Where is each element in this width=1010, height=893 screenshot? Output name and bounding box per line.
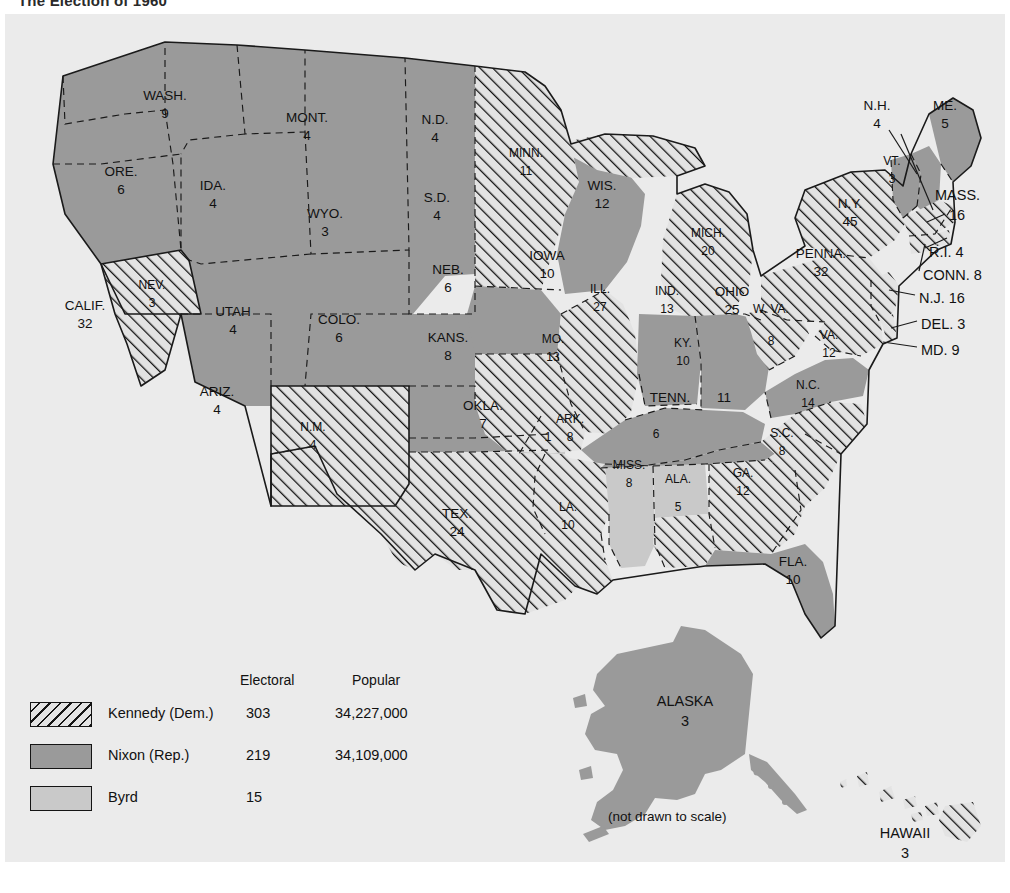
label-ida-votes: 4 xyxy=(209,196,217,211)
label-alaska-votes: 3 xyxy=(681,713,689,729)
label-nh: N.H. xyxy=(864,98,891,113)
label-ohio-votes: 25 xyxy=(724,302,739,317)
label-la: LA. xyxy=(559,500,577,514)
label-tenn-votes: 11 xyxy=(717,390,731,405)
label-wva-votes: 8 xyxy=(768,334,775,348)
label-sc-votes: 8 xyxy=(779,444,786,458)
label-me: ME. xyxy=(933,98,957,113)
legend-electoral-nixon: 219 xyxy=(246,747,270,763)
label-fla: FLA. xyxy=(779,554,808,569)
legend-swatch-nixon xyxy=(30,744,92,769)
label-wash-votes: 9 xyxy=(161,106,169,121)
legend-electoral-kennedy: 303 xyxy=(246,705,270,721)
label-tenn: TENN. xyxy=(650,390,691,405)
label-tex: TEX. xyxy=(442,506,472,521)
label-ind-votes: 13 xyxy=(660,302,674,316)
label-iowa-votes: 10 xyxy=(539,266,554,281)
label-wash: WASH. xyxy=(143,88,187,103)
label-ore: ORE. xyxy=(104,164,137,179)
label-utah-votes: 4 xyxy=(229,322,237,337)
label-penna: PENNA. xyxy=(796,246,846,261)
label-penna-votes: 32 xyxy=(813,264,828,279)
label-ore-votes: 6 xyxy=(117,182,125,197)
label-nev: NEV. xyxy=(139,278,166,292)
label-okla-byrd-votes: 1 xyxy=(545,430,552,444)
page-title: The Election of 1960 xyxy=(18,0,167,9)
label-okla: OKLA. xyxy=(463,398,503,413)
label-nm-votes: 4 xyxy=(310,438,317,452)
legend-row-nixon[interactable]: Nixon (Rep.) 219 34,109,000 xyxy=(22,740,452,782)
label-mass: MASS. xyxy=(935,187,980,203)
label-wis-votes: 12 xyxy=(594,196,609,211)
label-mo: MO. xyxy=(542,332,565,346)
label-ida: IDA. xyxy=(200,178,226,193)
legend-row-byrd[interactable]: Byrd 15 xyxy=(22,782,452,824)
legend-col-electoral: Electoral xyxy=(240,672,294,688)
label-la-votes: 10 xyxy=(561,518,575,532)
label-kans-votes: 8 xyxy=(444,348,452,363)
label-nc: N.C. xyxy=(796,378,820,392)
label-ind: IND. xyxy=(655,284,679,298)
alaska-isle-1 xyxy=(754,769,761,776)
label-okla-votes: 7 xyxy=(479,416,487,431)
label-nj: N.J. 16 xyxy=(919,290,965,306)
legend-swatch-kennedy xyxy=(30,702,92,727)
legend-row-kennedy[interactable]: Kennedy (Dem.) 303 34,227,000 xyxy=(22,698,452,740)
label-neb: NEB. xyxy=(432,262,464,277)
legend-electoral-byrd: 15 xyxy=(246,789,262,805)
label-miss-votes: 8 xyxy=(626,476,633,490)
legend-col-popular: Popular xyxy=(352,672,400,688)
label-ariz-votes: 4 xyxy=(213,402,221,417)
label-sd: S.D. xyxy=(424,190,450,205)
legend-label-nixon: Nixon (Rep.) xyxy=(108,747,189,763)
label-nh-votes: 4 xyxy=(873,116,881,131)
label-mich-votes: 20 xyxy=(701,244,715,258)
label-ga: GA. xyxy=(733,466,754,480)
label-ark-votes: 8 xyxy=(567,430,574,444)
alaska-isle-2 xyxy=(768,783,774,789)
label-fla-votes: 10 xyxy=(785,572,800,587)
label-vt: VT. xyxy=(883,154,900,168)
label-ala: ALA. xyxy=(665,472,691,486)
label-calif: CALIF. xyxy=(65,298,106,313)
label-neb-votes: 6 xyxy=(444,280,452,295)
not-to-scale-note: (not drawn to scale) xyxy=(608,809,727,824)
label-hawaii-votes: 3 xyxy=(901,845,909,861)
legend-header: Electoral Popular xyxy=(22,672,452,698)
label-ga-votes: 12 xyxy=(736,484,750,498)
label-minn-votes: 11 xyxy=(520,164,533,178)
label-del: DEL. 3 xyxy=(921,316,965,332)
label-ill: ILL. xyxy=(590,282,610,296)
label-mass-votes: 16 xyxy=(949,207,965,223)
label-minn: MINN. xyxy=(509,146,543,160)
label-nm: N.M. xyxy=(300,420,325,434)
label-ky-votes: 10 xyxy=(676,354,690,368)
label-kans: KANS. xyxy=(428,330,469,345)
label-miss: MISS. xyxy=(613,458,646,472)
label-ky: KY. xyxy=(674,336,692,350)
alaska-isle-3 xyxy=(782,799,788,805)
label-calif-votes: 32 xyxy=(77,316,92,331)
label-ariz: ARIZ. xyxy=(200,384,235,399)
label-nc-votes: 14 xyxy=(801,396,815,410)
legend-swatch-byrd xyxy=(30,786,92,811)
label-mo-votes: 13 xyxy=(546,350,560,364)
label-sc: S.C. xyxy=(770,426,793,440)
label-wis: WIS. xyxy=(587,178,616,193)
legend-label-byrd: Byrd xyxy=(108,789,138,805)
label-vt-votes: 3 xyxy=(889,172,896,186)
map-legend: Electoral Popular Kennedy (Dem.) 303 34,… xyxy=(22,672,452,824)
label-ark: ARK. xyxy=(556,412,584,426)
label-sd-votes: 4 xyxy=(433,208,441,223)
label-ohio: OHIO xyxy=(715,284,750,299)
legend-popular-nixon: 34,109,000 xyxy=(335,747,408,763)
label-alaska: ALASKA xyxy=(657,693,714,709)
label-ala-votes: 5 xyxy=(675,500,682,514)
legend-popular-kennedy: 34,227,000 xyxy=(335,705,408,721)
label-ill-votes: 27 xyxy=(593,300,607,314)
label-tex-votes: 24 xyxy=(449,524,465,539)
label-mont: MONT. xyxy=(286,110,328,125)
label-md: MD. 9 xyxy=(921,342,960,358)
label-ny: N.Y. xyxy=(838,196,863,211)
label-hawaii: HAWAII xyxy=(880,825,930,841)
